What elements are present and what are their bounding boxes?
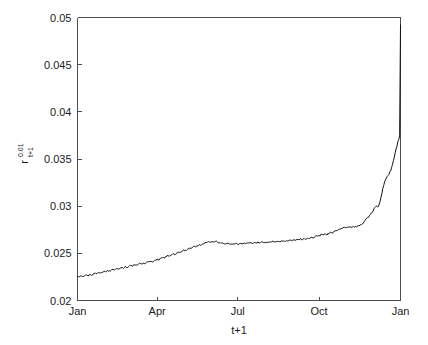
y-tick-label: 0.04 [50, 106, 71, 118]
y-tick-label: 0.05 [50, 12, 71, 24]
y-tick-label: 0.03 [50, 200, 71, 212]
x-tick-label: Apr [149, 305, 166, 317]
x-axis-title-group: t+1 [231, 324, 247, 336]
y-tick-label: 0.02 [50, 295, 71, 307]
figure-container: JanAprJulOctJan 0.020.0250.030.0350.040.… [0, 0, 428, 345]
x-tick-label: Oct [311, 305, 328, 317]
y-axis-title-base: r [18, 160, 30, 164]
x-axis-title: t+1 [231, 324, 247, 336]
y-axis-title-superscript: 0.01 [17, 143, 24, 157]
x-tick-label: Jan [392, 305, 410, 317]
y-tick-label: 0.025 [44, 247, 72, 259]
y-tick-label: 0.035 [44, 153, 72, 165]
y-axis-title-subscript: t+1 [27, 147, 34, 157]
chart-background [0, 0, 428, 345]
y-tick-label: 0.045 [44, 59, 72, 71]
line-chart: JanAprJulOctJan 0.020.0250.030.0350.040.… [0, 0, 428, 345]
x-tick-label: Jul [231, 305, 245, 317]
